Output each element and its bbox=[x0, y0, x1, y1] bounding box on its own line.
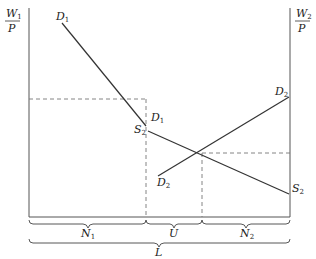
n1-label: N1 bbox=[80, 227, 95, 241]
labor-market-diagram: W1 P W2 P D1 D1 S2 S2 D2 D2 N1 U N2 L bbox=[0, 0, 316, 259]
svg-text:W1: W1 bbox=[6, 7, 22, 21]
svg-text:W2: W2 bbox=[296, 7, 312, 21]
d1-top-label: D1 bbox=[55, 10, 69, 24]
l-label: L bbox=[154, 246, 162, 259]
s2-left-label: S2 bbox=[134, 123, 146, 137]
right-axis-label: W2 P bbox=[295, 7, 312, 35]
svg-text:P: P bbox=[297, 22, 306, 35]
d2-left-label: D2 bbox=[156, 176, 170, 190]
u-label: U bbox=[169, 227, 179, 240]
n2-label: N2 bbox=[239, 227, 254, 241]
s2-right-label: S2 bbox=[292, 182, 304, 196]
left-axis-label: W1 P bbox=[5, 7, 22, 35]
svg-text:P: P bbox=[7, 22, 16, 35]
d1-bottom-label: D1 bbox=[150, 111, 164, 125]
d2-right-label: D2 bbox=[274, 85, 288, 99]
demand-curve-1 bbox=[62, 23, 146, 126]
